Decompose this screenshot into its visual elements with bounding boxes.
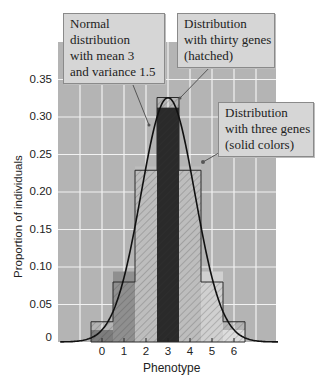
ytick-label: 0.05 [22, 298, 52, 310]
hatched-bar [157, 98, 179, 343]
callout-line: (hatched) [184, 48, 268, 64]
ytick-label: 0.30 [22, 110, 52, 122]
three-genes-callout: Distribution with three genes (solid col… [218, 102, 314, 157]
xtick-label: 6 [227, 345, 241, 357]
thirty-genes-callout: Distribution with thirty genes (hatched) [177, 13, 275, 68]
callout-line: Distribution [225, 105, 307, 121]
xtick-label: 2 [139, 345, 153, 357]
callout-line: with mean 3 [70, 48, 158, 64]
callout-line: with thirty genes [184, 32, 268, 48]
hatched-bar [201, 282, 223, 342]
ytick-label: 0.15 [22, 223, 52, 235]
callout-line: distribution [70, 32, 158, 48]
callout-line: Distribution [184, 16, 268, 32]
hatched-bar [113, 282, 135, 342]
pointer-dot [179, 97, 182, 100]
ytick-label: 0 [22, 331, 52, 343]
ytick-label: 0.10 [22, 260, 52, 272]
hatched-bar [179, 170, 201, 342]
normal-distribution-callout: Normal distribution with mean 3 and vari… [63, 13, 165, 84]
xtick-label: 5 [205, 345, 219, 357]
xtick-label: 1 [117, 345, 131, 357]
xtick-label: 3 [161, 345, 175, 357]
pointer-dot [201, 160, 205, 164]
ytick-label: 0.25 [22, 148, 52, 160]
pointer-dot [148, 124, 151, 127]
xtick-label: 0 [95, 345, 109, 357]
callout-line: (solid colors) [225, 137, 307, 153]
x-axis-label: Phenotype [143, 361, 200, 375]
callout-line: Normal [70, 16, 158, 32]
hatched-bar [135, 170, 157, 342]
callout-line: and variance 1.5 [70, 64, 158, 80]
xtick-label: 4 [183, 345, 197, 357]
ytick-label: 0.20 [22, 185, 52, 197]
callout-line: with three genes [225, 121, 307, 137]
y-axis-label: Proportion of individuals [12, 155, 24, 278]
ytick-label: 0.35 [22, 73, 52, 85]
